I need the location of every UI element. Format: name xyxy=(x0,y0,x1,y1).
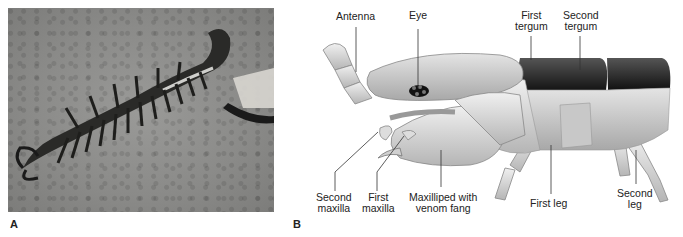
label-second-leg: Second leg xyxy=(617,188,653,210)
label-eye: Eye xyxy=(409,10,427,21)
second-maxilla xyxy=(380,126,392,140)
antenna-segments xyxy=(323,43,372,104)
label-first-leg: First leg xyxy=(530,198,567,209)
label-antenna: Antenna xyxy=(336,11,375,22)
label-first-maxilla: First maxilla xyxy=(362,192,395,214)
label-second-tergum: Second tergum xyxy=(563,10,599,32)
panel-letter-b: B xyxy=(293,218,301,230)
maxilliped xyxy=(391,92,525,165)
eye-cluster xyxy=(409,85,429,97)
label-first-tergum: First tergum xyxy=(515,10,548,32)
label-second-maxilla: Second maxilla xyxy=(316,192,352,214)
label-maxilliped: Maxilliped with venom fang xyxy=(409,192,477,214)
